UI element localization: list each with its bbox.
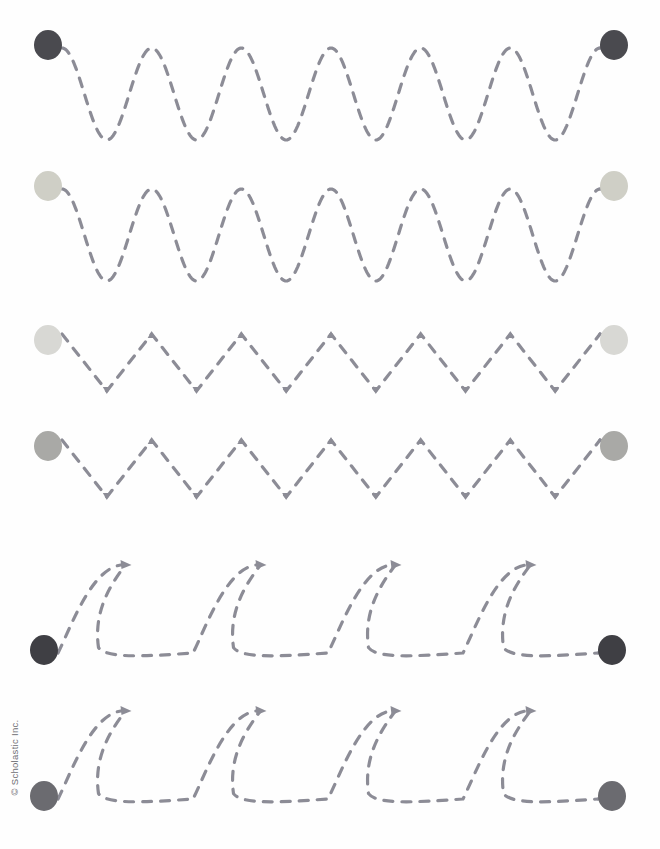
- start-dot: [34, 30, 62, 60]
- direction-arrow-icon: [462, 387, 470, 394]
- start-dot: [34, 325, 62, 355]
- direction-arrow-icon: [121, 706, 132, 715]
- direction-arrow-icon: [193, 493, 201, 500]
- start-dot: [30, 635, 58, 665]
- trace-row-5: [30, 560, 626, 665]
- direction-arrow-icon: [148, 331, 156, 338]
- direction-arrow-icon: [372, 493, 380, 500]
- direction-arrow-icon: [148, 437, 156, 444]
- trace-row-4: [34, 431, 628, 500]
- direction-arrow-icon: [256, 706, 267, 715]
- direction-arrow-icon: [551, 493, 559, 500]
- end-dot: [600, 171, 628, 201]
- direction-arrow-icon: [256, 560, 267, 569]
- direction-arrow-icon: [391, 706, 402, 715]
- direction-arrow-icon: [193, 387, 201, 394]
- start-dot: [34, 171, 62, 201]
- direction-arrow-icon: [372, 387, 380, 394]
- direction-arrow-icon: [282, 493, 290, 500]
- end-dot: [598, 781, 626, 811]
- direction-arrow-icon: [551, 387, 559, 394]
- dashed-trace-path-zigzag: [62, 334, 600, 391]
- end-dot: [600, 431, 628, 461]
- dashed-trace-path-cursive-loop: [58, 565, 598, 656]
- direction-arrow-icon: [526, 706, 537, 715]
- direction-arrow-icon: [237, 437, 245, 444]
- direction-arrow-icon: [121, 560, 132, 569]
- dashed-trace-path-zigzag: [62, 440, 600, 497]
- end-dot: [600, 30, 628, 60]
- dashed-trace-path-cursive-loop: [58, 711, 598, 802]
- direction-arrow-icon: [506, 331, 514, 338]
- direction-arrow-icon: [417, 437, 425, 444]
- direction-arrow-icon: [462, 493, 470, 500]
- end-dot: [598, 635, 626, 665]
- direction-arrow-icon: [391, 560, 402, 569]
- direction-arrow-icon: [327, 331, 335, 338]
- direction-arrow-icon: [103, 387, 111, 394]
- trace-row-3: [34, 325, 628, 394]
- dashed-trace-path-sine-wave: [62, 48, 600, 140]
- copyright-notice: © Scholastic Inc.: [9, 710, 20, 806]
- end-dot: [600, 325, 628, 355]
- start-dot: [30, 781, 58, 811]
- direction-arrow-icon: [237, 331, 245, 338]
- direction-arrow-icon: [506, 437, 514, 444]
- direction-arrow-icon: [417, 331, 425, 338]
- direction-arrow-icon: [327, 437, 335, 444]
- trace-row-1: [34, 30, 628, 140]
- direction-arrow-icon: [526, 560, 537, 569]
- tracing-paths-svg: [0, 0, 660, 849]
- start-dot: [34, 431, 62, 461]
- trace-row-2: [34, 171, 628, 281]
- worksheet-canvas: [0, 0, 660, 849]
- trace-row-6: [30, 706, 626, 811]
- direction-arrow-icon: [103, 493, 111, 500]
- dashed-trace-path-sine-wave: [62, 189, 600, 281]
- direction-arrow-icon: [282, 387, 290, 394]
